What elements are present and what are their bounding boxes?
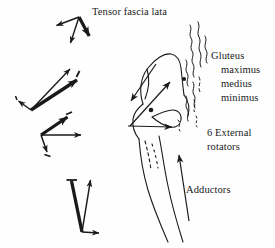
arrow-adductor-superior (82, 180, 91, 232)
cluster-gluteus (16, 69, 80, 110)
hatch-wave-3 (205, 36, 207, 63)
arrow-tfl-inferior (71, 17, 80, 43)
arrow-extrot-inferior-bar (45, 155, 51, 157)
hatch-wave-2 (198, 22, 201, 67)
femoral-shaft-medial (139, 139, 168, 242)
arrow-gluteus-short (19, 101, 32, 110)
gluteus-attachment-pointer (130, 82, 170, 126)
lesser-trochanter (152, 110, 181, 127)
cluster-tensor-fascia-lata (57, 17, 90, 43)
trochanteric-fossa-line (145, 69, 149, 99)
abductor-direction-pointer (131, 64, 156, 101)
arrow-gluteus-tail-bar (16, 96, 18, 100)
bone-pointer-arrows (128, 64, 189, 221)
hatch-wave-7 (186, 96, 188, 121)
label-gluteus-maximus: maximus (221, 65, 260, 76)
intertrochanteric-crest (145, 141, 151, 170)
attachment-dot-inferior (149, 108, 154, 113)
label-tensor-fascia-lata: Tensor fascia lata (92, 7, 167, 18)
linea-aspera-hint (152, 144, 158, 168)
arrow-adductor-main (72, 181, 83, 232)
diagram-artwork (0, 0, 275, 248)
cluster-adductors (67, 180, 100, 233)
arrow-gluteus-main-bar (77, 71, 80, 77)
attachment-dot-superior (182, 77, 186, 81)
hatch-wave-4 (186, 60, 188, 86)
cluster-external-rotators (41, 112, 81, 157)
femoral-shaft-lateral (159, 136, 183, 242)
label-gluteus: Gluteus (211, 51, 244, 62)
arrow-tfl-main (79, 17, 89, 36)
arrow-extrot-inferior (41, 135, 47, 152)
arrow-gluteus-main (31, 80, 77, 110)
arrow-tfl-lateral (57, 17, 80, 26)
hatch-wave-1 (190, 25, 194, 77)
label-external-rotators-line1: 6 External (207, 128, 251, 139)
label-adductors: Adductors (186, 185, 231, 196)
arrow-extrot-main (41, 117, 68, 135)
arrow-extrot-main-bar (66, 112, 72, 115)
femur-drawing (133, 54, 189, 242)
anatomical-diagram: Tensor fascia lata Gluteus maximus mediu… (0, 0, 275, 248)
label-external-rotators-line2: rotators (207, 142, 240, 153)
label-gluteus-minimus: minimus (221, 93, 258, 104)
hatch-wave-5 (193, 82, 195, 108)
hatch-wave-6 (199, 77, 200, 92)
hatch-wave-9 (196, 116, 197, 127)
label-gluteus-medius: medius (221, 79, 252, 90)
arrow-adductor-lateral (82, 232, 99, 233)
greater-trochanter-outline (141, 54, 184, 104)
